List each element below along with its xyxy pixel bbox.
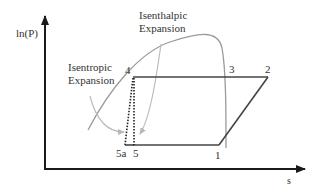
point-label-5: 5 <box>133 147 139 159</box>
ln-p-s-diagram: ln(P) s Isenthalpic Expansion Isentropic… <box>0 0 318 192</box>
isentropic-label-line1: Isentropic <box>68 61 112 73</box>
isenthalpic-label-line2: Expansion <box>139 22 186 34</box>
point-label-1: 1 <box>215 149 221 161</box>
point-label-4: 4 <box>125 64 131 76</box>
saturation-dome <box>88 34 226 148</box>
isentropic-label-line2: Expansion <box>68 74 115 86</box>
isentropic-line-4-5a <box>125 78 133 145</box>
point-label-3: 3 <box>229 63 235 75</box>
y-axis-label: ln(P) <box>16 27 38 40</box>
x-axis-label: s <box>287 175 291 186</box>
point-label-5a: 5a <box>116 147 127 159</box>
point-label-2: 2 <box>265 63 271 75</box>
isentropic-arrow <box>90 96 124 132</box>
isenthalpic-label-line1: Isenthalpic <box>139 9 187 21</box>
